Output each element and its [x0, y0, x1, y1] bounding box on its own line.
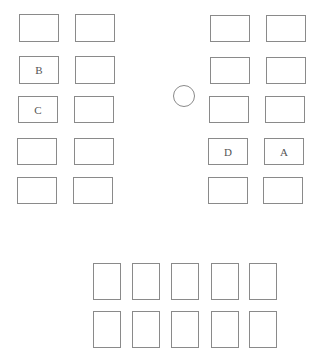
right_group-desk	[266, 57, 306, 84]
left_group-desk	[17, 177, 57, 204]
bottom_group-desk	[93, 263, 121, 300]
left_group-desk	[74, 138, 114, 165]
right_group-desk	[266, 15, 306, 42]
center-circle-marker	[173, 85, 195, 107]
right_group-desk	[210, 15, 250, 42]
desk-d: D	[208, 138, 248, 165]
bottom_group-desk	[171, 311, 199, 348]
left_group-desk	[19, 14, 59, 42]
desk-a: A	[264, 138, 304, 165]
left_group-desk	[75, 56, 115, 84]
desk-c: C	[18, 96, 58, 123]
right_group-desk	[209, 96, 249, 123]
bottom_group-desk	[211, 311, 239, 348]
bottom_group-desk	[171, 263, 199, 300]
right_group-desk	[208, 177, 248, 204]
bottom_group-desk	[132, 263, 160, 300]
bottom_group-desk	[211, 263, 239, 300]
left_group-desk	[75, 14, 115, 42]
bottom_group-desk	[132, 311, 160, 348]
bottom_group-desk	[93, 311, 121, 348]
seating-diagram: BCDA	[0, 0, 319, 363]
bottom_group-desk	[249, 263, 277, 300]
bottom_group-desk	[249, 311, 277, 348]
right_group-desk	[263, 177, 303, 204]
right_group-desk	[265, 96, 305, 123]
left_group-desk	[74, 96, 114, 123]
left_group-desk	[17, 138, 57, 165]
left_group-desk	[73, 177, 113, 204]
desk-b: B	[19, 56, 59, 84]
right_group-desk	[210, 57, 250, 84]
